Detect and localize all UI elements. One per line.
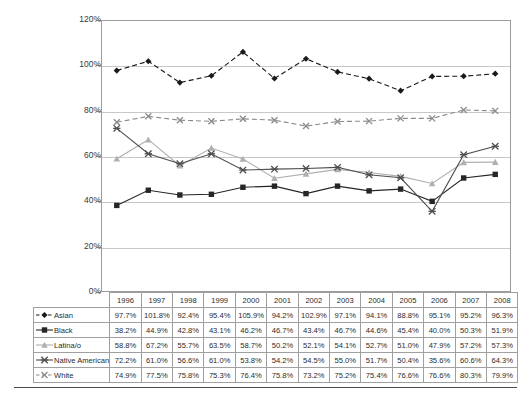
series-native-american	[113, 125, 499, 214]
line-chart: 0%20%40%60%80%100%120%	[0, 0, 531, 300]
table-cell: 50.2%	[267, 338, 298, 353]
table-cell: 55.7%	[173, 338, 204, 353]
legend-label: Black	[54, 326, 73, 335]
table-column-header: 1999	[204, 293, 235, 308]
y-tick-label: 60%	[57, 151, 101, 160]
table-cell: 58.7%	[235, 338, 266, 353]
legend-item-latina-o: Latina/o	[34, 338, 110, 353]
table-cell: 52.1%	[298, 338, 329, 353]
table-cell: 76.6%	[424, 368, 455, 383]
table-cell: 46.7%	[267, 323, 298, 338]
table-cell: 95.4%	[204, 308, 235, 323]
table-cell: 61.0%	[204, 353, 235, 368]
table-cell: 47.9%	[424, 338, 455, 353]
table-cell: 54.1%	[330, 338, 361, 353]
legend-swatch-triangle-icon	[36, 340, 53, 350]
table-cell: 38.2%	[110, 323, 141, 338]
table-row: Black38.2%44.9%42.8%43.1%46.2%46.7%43.4%…	[34, 323, 518, 338]
table-cell: 101.8%	[141, 308, 172, 323]
y-tick-label: 120%	[57, 15, 101, 24]
data-point-star-marker	[460, 151, 467, 157]
table-cell: 60.6%	[455, 353, 486, 368]
data-point-diamond-marker	[114, 67, 120, 73]
table-cell: 92.4%	[173, 308, 204, 323]
table-row: Native American72.2%61.0%56.6%61.0%53.8%…	[34, 353, 518, 368]
legend-item-asian: Asian	[34, 308, 110, 323]
table-cell: 88.8%	[392, 308, 423, 323]
table-cell: 94.1%	[361, 308, 392, 323]
table-cell: 75.3%	[204, 368, 235, 383]
legend-swatch-star-icon	[36, 355, 53, 365]
table-cell: 51.0%	[392, 338, 423, 353]
legend-marker	[36, 340, 53, 350]
table-cell: 75.4%	[361, 368, 392, 383]
table-cell: 94.2%	[267, 308, 298, 323]
table-column-header: 2000	[235, 293, 266, 308]
series-asian	[114, 49, 499, 94]
table-cell: 105.9%	[235, 308, 266, 323]
y-tick-label: 20%	[57, 242, 101, 251]
data-point-square-marker	[240, 185, 245, 190]
y-axis: 0%20%40%60%80%100%120%	[0, 0, 101, 292]
table-cell: 50.3%	[455, 323, 486, 338]
table-cell: 74.9%	[110, 368, 141, 383]
data-point-square-marker	[335, 183, 340, 188]
table-cell: 51.9%	[486, 323, 517, 338]
legend-label: White	[54, 371, 73, 380]
table-cell: 43.1%	[204, 323, 235, 338]
legend-swatch-diamond-icon	[36, 310, 53, 320]
table-cell: 75.8%	[173, 368, 204, 383]
table-cell: 102.9%	[298, 308, 329, 323]
legend-label: Native American	[54, 356, 109, 365]
table-column-header: 2002	[298, 293, 329, 308]
data-point-square-marker	[114, 203, 119, 208]
y-tick-label: 80%	[57, 106, 101, 115]
data-point-diamond-marker	[492, 71, 498, 77]
table-cell: 40.0%	[424, 323, 455, 338]
legend-marker	[36, 370, 53, 380]
table-column-header: 2004	[361, 293, 392, 308]
data-point-diamond-marker	[145, 58, 151, 64]
legend-marker	[36, 310, 53, 320]
data-point-star-marker	[208, 151, 215, 157]
data-point-square-marker	[209, 192, 214, 197]
table-cell: 35.6%	[424, 353, 455, 368]
data-point-square-marker	[366, 188, 371, 193]
y-tick-label: 40%	[57, 196, 101, 205]
table-cell: 76.6%	[392, 368, 423, 383]
table-cell: 67.2%	[141, 338, 172, 353]
legend-marker	[36, 325, 53, 335]
data-point-triangle-marker	[208, 145, 215, 151]
data-point-triangle-marker	[113, 155, 120, 161]
y-tick-label: 100%	[57, 60, 101, 69]
table-cell: 51.7%	[361, 353, 392, 368]
data-point-diamond-marker	[366, 76, 372, 82]
data-point-star-marker	[239, 167, 246, 173]
series-line	[117, 128, 495, 211]
table-cell: 53.8%	[235, 353, 266, 368]
table-cell: 97.7%	[110, 308, 141, 323]
table-row: Latina/o58.8%67.2%55.7%63.5%58.7%50.2%52…	[34, 338, 518, 353]
table-cell: 97.1%	[330, 308, 361, 323]
table-cell: 95.1%	[424, 308, 455, 323]
table-column-header: 2008	[486, 293, 517, 308]
data-point-square-marker	[177, 192, 182, 197]
data-point-star-marker	[145, 151, 152, 157]
legend-marker	[36, 355, 53, 365]
data-point-square-marker	[272, 183, 277, 188]
table-column-header: 2007	[455, 293, 486, 308]
table-cell: 75.2%	[330, 368, 361, 383]
table-cell: 96.3%	[486, 308, 517, 323]
table-cell: 44.9%	[141, 323, 172, 338]
table-header-row: 1996199719981999200020012002200320042005…	[34, 293, 518, 308]
table-column-header: 2001	[267, 293, 298, 308]
data-point-star-marker	[492, 143, 499, 149]
table-corner-cell	[34, 293, 110, 308]
data-point-square-marker	[42, 327, 47, 332]
table-cell: 55.0%	[330, 353, 361, 368]
footer-divider	[14, 387, 517, 388]
table-row: Asian97.7%101.8%92.4%95.4%105.9%94.2%102…	[34, 308, 518, 323]
legend-item-white: White	[34, 368, 110, 383]
legend-label: Latina/o	[54, 341, 81, 350]
table-cell: 72.2%	[110, 353, 141, 368]
